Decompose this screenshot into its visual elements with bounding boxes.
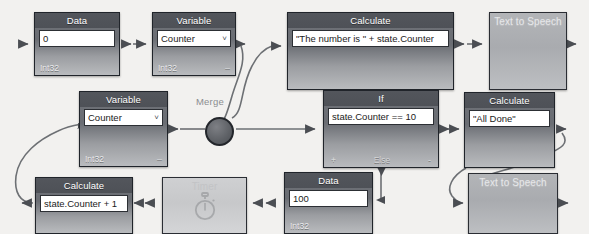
- node-calculate-counter-increment[interactable]: Calculate state.Counter + 1: [35, 177, 133, 234]
- merge-label: Merge: [196, 96, 224, 107]
- node-footer: Int32 –: [80, 153, 167, 166]
- node-footer: Int32 –: [153, 62, 235, 75]
- flow-diagram-canvas: Merge Data 0 Int32 Variable Counter ˅ In…: [0, 0, 589, 234]
- node-header: Calculate: [36, 178, 132, 193]
- node-header: Data: [285, 173, 372, 188]
- node-data-0[interactable]: Data 0 Int32: [34, 12, 120, 76]
- data-value-text: 0: [43, 31, 111, 46]
- node-footer: [288, 76, 453, 89]
- variable-name-text: Counter: [88, 110, 150, 125]
- stopwatch-icon: [192, 192, 218, 222]
- variable-select[interactable]: Counter ˅: [84, 109, 163, 126]
- else-branch-label: Else: [336, 154, 428, 167]
- node-header: Variable: [80, 92, 167, 107]
- node-collapse-icon[interactable]: –: [157, 153, 162, 166]
- node-header: Calculate: [465, 93, 554, 108]
- node-footer: [36, 220, 132, 233]
- node-type-label: Int32: [290, 220, 309, 233]
- expression-input[interactable]: "The number is " + state.Counter: [292, 30, 449, 47]
- node-header: Text to Speech: [469, 174, 557, 192]
- node-footer: Int32: [35, 62, 119, 75]
- node-variable-counter-mid[interactable]: Variable Counter ˅ Int32 –: [79, 91, 168, 167]
- data-value-input[interactable]: 0: [39, 30, 115, 47]
- node-if[interactable]: If state.Counter == 10 + Else -: [323, 90, 439, 168]
- data-value-input[interactable]: 100: [289, 190, 368, 207]
- node-type-label: Int32: [158, 62, 177, 75]
- condition-input[interactable]: state.Counter == 10: [328, 108, 434, 125]
- condition-text: state.Counter == 10: [332, 109, 430, 124]
- node-timer[interactable]: Timer: [162, 177, 247, 234]
- node-text-to-speech-bottom[interactable]: Text to Speech: [468, 173, 558, 234]
- node-header: Text to Speech: [490, 13, 566, 31]
- node-footer: + Else -: [324, 154, 438, 167]
- expression-input[interactable]: "All Done": [469, 110, 550, 127]
- page-scan-artifact: [0, 0, 589, 9]
- expression-input[interactable]: state.Counter + 1: [40, 195, 128, 212]
- node-calculate-number-is[interactable]: Calculate "The number is " + state.Count…: [287, 12, 454, 90]
- variable-name-text: Counter: [161, 31, 218, 46]
- merge-junction[interactable]: [205, 117, 234, 146]
- node-collapse-icon[interactable]: –: [225, 62, 230, 75]
- node-header: Variable: [153, 13, 235, 28]
- expression-text: state.Counter + 1: [44, 196, 124, 211]
- node-type-label: Int32: [85, 153, 104, 166]
- chevron-down-icon[interactable]: ˅: [154, 114, 159, 122]
- chevron-down-icon[interactable]: ˅: [222, 35, 227, 43]
- variable-select[interactable]: Counter ˅: [157, 30, 231, 47]
- node-header: If: [324, 91, 438, 106]
- node-type-label: Int32: [40, 62, 59, 75]
- data-value-text: 100: [293, 191, 364, 206]
- node-variable-counter-top[interactable]: Variable Counter ˅ Int32 –: [152, 12, 236, 76]
- node-calculate-all-done[interactable]: Calculate "All Done": [464, 92, 555, 168]
- expression-text: "The number is " + state.Counter: [296, 31, 445, 46]
- node-footer: [465, 154, 554, 167]
- node-data-100[interactable]: Data 100 Int32: [284, 172, 373, 234]
- node-header: Calculate: [288, 13, 453, 28]
- node-footer: Int32: [285, 220, 372, 233]
- node-header: Data: [35, 13, 119, 28]
- node-text-to-speech-top[interactable]: Text to Speech: [489, 12, 567, 90]
- expression-text: "All Done": [473, 111, 546, 126]
- remove-branch-button[interactable]: -: [428, 154, 431, 167]
